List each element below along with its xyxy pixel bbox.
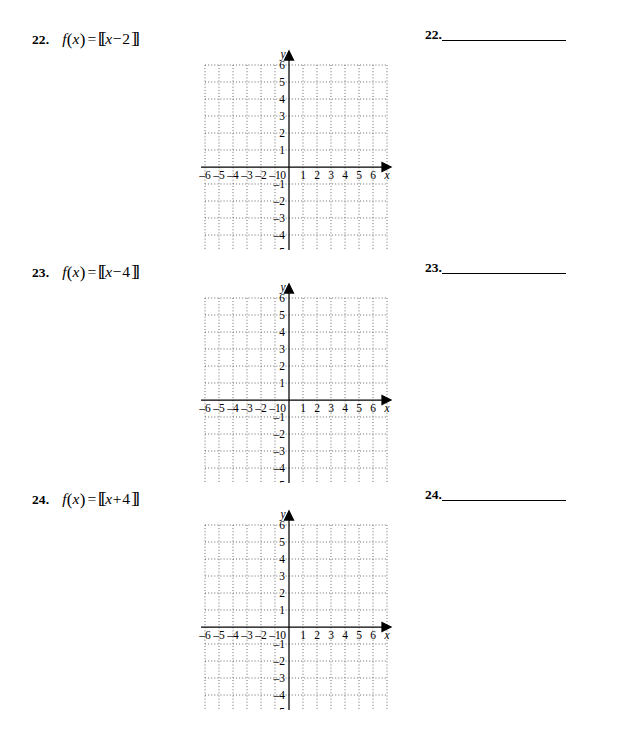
problem-row: 23. f(x)=[[x−4]] — [0, 253, 634, 483]
plot-area: –6 –5 –4 –3 –2 –1 0 1 2 3 4 5 6 — [197, 45, 395, 250]
expression-variable: x — [73, 30, 80, 47]
svg-text:4: 4 — [279, 93, 285, 105]
operand-value: 4 — [122, 263, 130, 280]
svg-text:–2: –2 — [254, 169, 267, 181]
close-paren: ) — [80, 490, 86, 509]
coordinate-grid[interactable]: –6 –5 –4 –3 –2 –1 0 1 2 3 4 5 6 — [197, 505, 395, 710]
svg-text:3: 3 — [279, 343, 285, 355]
problem-expression: f(x)=[[x+4]] — [62, 488, 136, 510]
svg-text:–5: –5 — [212, 629, 225, 641]
answer-write-line[interactable] — [442, 40, 566, 41]
svg-text:–5: –5 — [212, 402, 225, 414]
svg-text:6: 6 — [370, 629, 376, 641]
double-bracket-close-icon: ]] — [131, 488, 136, 508]
svg-text:4: 4 — [342, 402, 348, 414]
worksheet-page: 22. f(x)=[[x−2]] — [0, 0, 634, 748]
svg-text:–4: –4 — [273, 462, 286, 474]
svg-text:5: 5 — [279, 536, 285, 548]
inner-variable: x — [105, 263, 112, 280]
svg-text:5: 5 — [356, 629, 362, 641]
plot-area: –6 –5 –4 –3 –2 –1 0 1 2 3 4 5 6 — [197, 505, 395, 710]
close-paren: ) — [80, 30, 86, 49]
double-bracket-open-icon: [[ — [98, 261, 103, 281]
answer-blank[interactable]: 23. — [425, 261, 566, 275]
operator-sign: − — [113, 30, 122, 47]
svg-text:y: y — [279, 48, 286, 61]
svg-text:2: 2 — [314, 629, 320, 641]
svg-text:4: 4 — [279, 326, 285, 338]
inner-variable: x — [105, 490, 112, 507]
svg-text:–4: –4 — [226, 629, 239, 641]
answer-number: 22. — [425, 28, 442, 42]
svg-text:–2: –2 — [273, 655, 286, 667]
svg-text:2: 2 — [314, 402, 320, 414]
svg-text:y: y — [279, 281, 286, 294]
svg-text:4: 4 — [342, 169, 348, 181]
svg-text:6: 6 — [279, 292, 285, 304]
svg-text:2: 2 — [279, 127, 285, 139]
svg-text:3: 3 — [279, 570, 285, 582]
answer-number: 24. — [425, 488, 442, 502]
problem-expression: f(x)=[[x−4]] — [62, 261, 136, 283]
problem-prompt: 24. f(x)=[[x+4]] — [32, 488, 137, 510]
svg-text:5: 5 — [356, 402, 362, 414]
answer-blank[interactable]: 22. — [425, 28, 566, 42]
svg-text:–2: –2 — [254, 402, 267, 414]
svg-text:–3: –3 — [240, 402, 253, 414]
expression-variable: x — [73, 263, 80, 280]
problem-row: 24. f(x)=[[x+4]] — [0, 480, 634, 710]
svg-text:x: x — [383, 629, 390, 641]
svg-text:6: 6 — [279, 519, 285, 531]
svg-text:–1: –1 — [273, 411, 286, 423]
svg-text:–3: –3 — [273, 672, 286, 684]
problem-number: 22. — [32, 32, 49, 48]
close-paren: ) — [80, 263, 86, 282]
svg-text:–3: –3 — [240, 169, 253, 181]
plot-area: –6 –5 –4 –3 –2 –1 0 1 2 3 4 5 6 — [197, 278, 395, 483]
problem-expression: f(x)=[[x−2]] — [62, 28, 136, 50]
double-bracket-close-icon: ]] — [131, 28, 136, 48]
svg-text:–5: –5 — [273, 706, 286, 710]
svg-text:1: 1 — [300, 169, 306, 181]
problem-number: 24. — [32, 492, 49, 508]
svg-text:–2: –2 — [254, 629, 267, 641]
equals-sign: = — [88, 30, 97, 47]
svg-text:3: 3 — [279, 110, 285, 122]
answer-blank[interactable]: 24. — [425, 488, 566, 502]
problem-prompt: 23. f(x)=[[x−4]] — [32, 261, 137, 283]
equals-sign: = — [88, 490, 97, 507]
svg-text:1: 1 — [300, 402, 306, 414]
svg-text:–6: –6 — [198, 169, 211, 181]
answer-write-line[interactable] — [442, 273, 566, 274]
coordinate-grid[interactable]: –6 –5 –4 –3 –2 –1 0 1 2 3 4 5 6 — [197, 278, 395, 483]
svg-text:1: 1 — [300, 629, 306, 641]
answer-write-line[interactable] — [442, 500, 566, 501]
problem-prompt: 22. f(x)=[[x−2]] — [32, 28, 137, 50]
svg-text:y: y — [279, 508, 286, 521]
double-bracket-open-icon: [[ — [98, 488, 103, 508]
svg-text:x: x — [383, 169, 390, 181]
svg-text:–6: –6 — [198, 629, 211, 641]
svg-text:–2: –2 — [273, 428, 286, 440]
svg-text:4: 4 — [279, 553, 285, 565]
equals-sign: = — [88, 263, 97, 280]
inner-variable: x — [105, 30, 112, 47]
svg-text:3: 3 — [328, 402, 334, 414]
svg-text:6: 6 — [370, 402, 376, 414]
svg-text:–4: –4 — [226, 169, 239, 181]
svg-text:1: 1 — [279, 144, 285, 156]
coordinate-grid[interactable]: –6 –5 –4 –3 –2 –1 0 1 2 3 4 5 6 — [197, 45, 395, 250]
svg-text:1: 1 — [279, 604, 285, 616]
svg-text:–2: –2 — [273, 195, 286, 207]
svg-text:–4: –4 — [273, 229, 286, 241]
problem-number: 23. — [32, 265, 49, 281]
expression-variable: x — [73, 490, 80, 507]
svg-text:–4: –4 — [273, 689, 286, 701]
svg-text:5: 5 — [279, 76, 285, 88]
svg-text:5: 5 — [356, 169, 362, 181]
operator-sign: − — [113, 263, 122, 280]
svg-text:–3: –3 — [273, 212, 286, 224]
operator-sign: + — [113, 490, 122, 507]
svg-text:–3: –3 — [273, 445, 286, 457]
operand-value: 2 — [122, 30, 130, 47]
